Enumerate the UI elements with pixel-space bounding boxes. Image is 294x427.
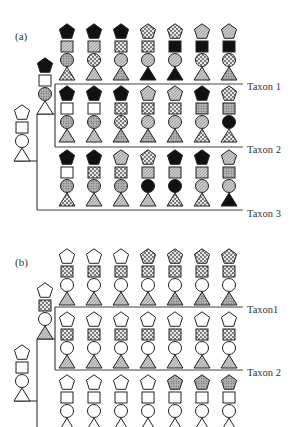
triangle-glyph <box>86 355 102 368</box>
pentagon-glyph <box>113 150 128 165</box>
triangle-glyph <box>113 129 129 142</box>
square-glyph <box>16 122 28 133</box>
circle-glyph <box>61 342 74 355</box>
taxon-1-1-column-3 <box>140 312 156 368</box>
taxon-1-1-column-2 <box>113 312 129 368</box>
circle-glyph <box>61 116 74 129</box>
circle-glyph <box>88 180 101 193</box>
square-glyph <box>88 392 100 403</box>
taxon-0-2-column-2 <box>113 150 129 206</box>
pentagon-glyph <box>14 345 29 360</box>
circle-glyph <box>88 116 101 129</box>
pentagon-glyph <box>140 312 155 327</box>
circle-glyph <box>169 342 182 355</box>
square-glyph <box>169 266 181 277</box>
pentagon-glyph <box>59 150 74 165</box>
triangle-glyph <box>14 388 30 401</box>
circle-glyph <box>115 405 128 418</box>
square-glyph <box>142 329 154 340</box>
taxon-1-0-column-6 <box>221 249 237 305</box>
taxon-0-2-column-3 <box>140 150 156 206</box>
circle-glyph <box>142 54 155 67</box>
circle-glyph <box>169 279 182 292</box>
circle-glyph <box>115 116 128 129</box>
triangle-glyph <box>221 193 237 206</box>
square-glyph <box>142 103 154 114</box>
circle-glyph <box>142 405 155 418</box>
circle-glyph <box>169 54 182 67</box>
triangle-glyph <box>115 418 127 427</box>
circle-glyph <box>223 180 236 193</box>
pentagon-glyph <box>86 86 101 101</box>
triangle-glyph <box>59 67 75 80</box>
square-glyph <box>61 329 73 340</box>
taxon-1-1-column-5 <box>194 312 210 368</box>
square-glyph <box>115 329 127 340</box>
triangle-glyph <box>221 67 237 80</box>
triangle-glyph <box>194 129 210 142</box>
pentagon-glyph <box>140 86 155 101</box>
triangle-glyph <box>221 355 237 368</box>
pentagon-glyph <box>37 283 52 298</box>
circle-glyph <box>169 180 182 193</box>
circle-glyph <box>196 279 209 292</box>
triangle-glyph <box>14 148 30 161</box>
triangle-glyph <box>196 418 208 427</box>
circle-glyph <box>88 279 101 292</box>
pentagon-glyph <box>86 249 101 263</box>
circle-glyph <box>61 180 74 193</box>
taxon-0-0-column-5 <box>194 24 210 80</box>
square-glyph <box>88 167 100 178</box>
taxon-1-0-column-4 <box>167 249 183 305</box>
triangle-glyph <box>221 292 237 305</box>
internal-node-1 <box>37 283 53 339</box>
taxon-1-1-column-0 <box>59 312 75 368</box>
taxon-0-1-column-0 <box>59 86 75 142</box>
taxon-0-1-column-4 <box>167 86 183 142</box>
square-glyph <box>16 362 28 373</box>
triangle-glyph <box>86 67 102 80</box>
square-glyph <box>61 103 73 114</box>
taxon-0-2-column-6 <box>221 150 237 206</box>
taxon-1-2-column-4 <box>167 375 182 427</box>
square-glyph <box>169 41 181 52</box>
triangle-glyph <box>167 129 183 142</box>
triangle-glyph <box>140 355 156 368</box>
circle-glyph <box>16 135 29 148</box>
pentagon-glyph <box>113 249 128 263</box>
taxon-1-0-column-3 <box>140 249 156 305</box>
pentagon-glyph <box>14 105 29 120</box>
triangle-glyph <box>140 193 156 206</box>
square-glyph <box>115 266 127 277</box>
square-glyph <box>169 329 181 340</box>
triangle-glyph <box>88 418 100 427</box>
triangle-glyph <box>113 67 129 80</box>
root-node-1 <box>14 345 30 401</box>
circle-glyph <box>88 342 101 355</box>
square-glyph <box>39 300 51 311</box>
taxon-0-1-column-6 <box>221 86 237 142</box>
pentagon-glyph <box>113 375 128 390</box>
square-glyph <box>196 392 208 403</box>
triangle-glyph <box>194 67 210 80</box>
square-glyph <box>223 41 235 52</box>
triangle-glyph <box>194 292 210 305</box>
square-glyph <box>142 392 154 403</box>
pentagon-glyph <box>194 86 209 101</box>
pentagon-glyph <box>221 375 236 390</box>
circle-glyph <box>39 313 52 326</box>
pentagon-glyph <box>59 312 74 327</box>
circle-glyph <box>169 405 182 418</box>
taxon-1-2-column-2 <box>113 375 128 427</box>
triangle-glyph <box>86 292 102 305</box>
triangle-glyph <box>113 292 129 305</box>
pentagon-glyph <box>221 86 236 101</box>
square-glyph <box>169 167 181 178</box>
taxon-0-0-column-2 <box>113 24 129 80</box>
square-glyph <box>115 167 127 178</box>
circle-glyph <box>142 279 155 292</box>
taxon-label: Taxon 2 <box>247 144 281 155</box>
square-glyph <box>115 41 127 52</box>
taxon-1-0-column-0 <box>59 249 75 305</box>
pentagon-glyph <box>194 312 209 327</box>
